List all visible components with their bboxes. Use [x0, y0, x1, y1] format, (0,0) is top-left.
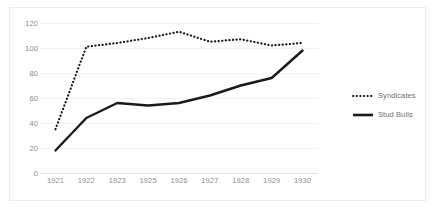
y-axis-tick-label: 40 — [4, 119, 38, 128]
x-axis-tick-label: 1929 — [263, 176, 280, 185]
x-axis-tick-label: 1927 — [201, 176, 218, 185]
legend-item-stud-bulls: Stud Bulls — [352, 107, 424, 122]
series-line — [55, 51, 302, 151]
legend-item-syndicates: Syndicates — [352, 88, 424, 103]
y-axis-tick-label: 60 — [4, 94, 38, 103]
x-axis-line — [40, 173, 318, 174]
x-axis-tick-label: 1925 — [140, 176, 157, 185]
x-axis-tick-label: 1930 — [294, 176, 311, 185]
y-axis-tick-label: 100 — [4, 44, 38, 53]
x-axis-tick-label: 1928 — [232, 176, 249, 185]
x-axis-tick-label: 1926 — [170, 176, 187, 185]
y-axis-tick-label: 20 — [4, 144, 38, 153]
chart-container: 020406080100120 192119221923192519261927… — [0, 0, 439, 212]
x-axis-tick-label: 1922 — [78, 176, 95, 185]
legend-label-stud-bulls: Stud Bulls — [378, 110, 413, 119]
solid-line-icon — [352, 110, 374, 120]
x-axis-tick-label: 1921 — [47, 176, 64, 185]
chart-legend: Syndicates Stud Bulls — [352, 88, 424, 126]
series-layer — [40, 23, 318, 173]
x-axis-tick-label: 1923 — [109, 176, 126, 185]
y-axis-tick-label: 120 — [4, 19, 38, 28]
y-axis: 020406080100120 — [0, 23, 38, 173]
y-axis-tick-label: 80 — [4, 69, 38, 78]
plot-area — [40, 23, 318, 173]
dotted-line-icon — [352, 91, 374, 101]
x-axis: 192119221923192519261927192819291930 — [40, 176, 318, 190]
legend-label-syndicates: Syndicates — [378, 91, 416, 100]
y-axis-tick-label: 0 — [4, 169, 38, 178]
